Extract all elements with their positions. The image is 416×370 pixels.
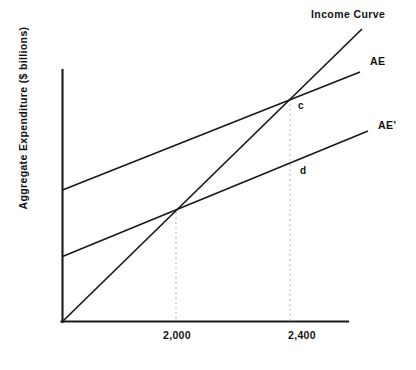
aggregate-expenditure-chart: Income Curve AE AE' c d 2,000 2,400 Aggr… bbox=[0, 0, 416, 370]
point-label-c: c bbox=[298, 100, 304, 111]
x-tick-label-2000: 2,000 bbox=[163, 329, 191, 341]
ae-prime-label: AE' bbox=[378, 119, 396, 131]
chart-canvas: Income Curve AE AE' c d 2,000 2,400 Aggr… bbox=[0, 0, 416, 370]
ae-label: AE bbox=[370, 55, 385, 67]
y-axis-title: Aggregate Expenditure ($ billions) bbox=[17, 27, 29, 210]
point-label-d: d bbox=[300, 165, 306, 176]
x-tick-label-2400: 2,400 bbox=[288, 329, 316, 341]
income-curve-label: Income Curve bbox=[311, 8, 385, 20]
